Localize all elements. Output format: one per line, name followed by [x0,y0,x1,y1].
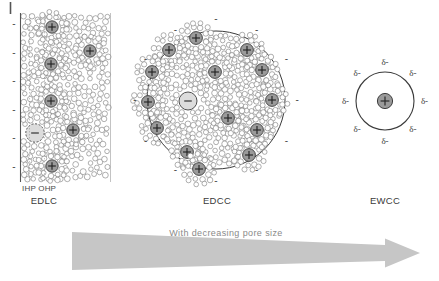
solvent-molecule [193,59,198,64]
solvent-molecule [54,75,59,80]
solvent-molecule [66,75,72,81]
delta-negative-charge: δ- [421,96,428,106]
solvent-molecule [254,42,259,47]
pore-wall-negative-charge: - [214,13,217,24]
solvent-molecule [238,78,243,83]
solvent-molecule [165,128,170,133]
solvent-molecule [259,145,264,150]
solvent-molecule [207,135,212,140]
solvent-molecule [78,63,84,69]
solvent-molecule [21,13,27,19]
solvent-molecule [44,122,50,128]
solvent-molecule [217,160,222,165]
solvent-molecule [55,69,60,74]
solvent-molecule [21,112,26,117]
solvent-molecule [221,45,226,50]
solvent-molecule [167,117,172,122]
solvent-molecule [104,126,109,131]
solvent-molecule [102,172,108,178]
solvent-molecule [48,173,53,178]
solvent-molecule [26,80,31,85]
solvent-molecule [208,30,213,35]
solvent-molecule [244,84,249,89]
solvent-molecule [251,143,256,148]
arrow-caption: With decreasing pore size [169,228,283,238]
solvent-molecule [88,98,94,104]
solvent-molecule [47,14,52,19]
solvent-molecule [91,112,96,117]
solvent-molecule [21,72,27,78]
solvent-molecule [242,91,247,96]
solvent-molecule [194,182,199,187]
solvent-molecule [153,54,158,59]
ewcc-label: EWCC [370,195,400,206]
solvent-molecule [86,144,92,150]
solvent-molecule [239,37,244,42]
solvent-molecule [21,139,27,145]
solvent-molecule [231,80,236,85]
solvent-molecule [195,151,200,156]
electrode-negative-charge: - [12,47,15,58]
solvent-molecule [156,46,161,51]
solvent-molecule [98,13,104,19]
solvent-molecule [86,89,91,94]
solvent-molecule [151,45,157,51]
solvent-molecule [283,92,288,97]
solvent-molecule [193,177,198,182]
solvent-molecule [164,65,169,70]
solvent-molecule [249,67,254,72]
solvent-molecule [239,103,244,108]
solvent-molecule [213,126,218,131]
solvent-molecule [41,176,46,181]
solvent-molecule [104,132,109,137]
solvent-molecule [232,58,237,63]
solvent-molecule [240,32,245,37]
solvent-molecule [213,155,218,160]
solvent-molecule [61,139,66,144]
solvent-molecule [78,76,84,82]
solvent-molecule [41,170,46,175]
solvent-molecule [23,24,29,30]
solvent-molecule [23,151,28,156]
solvent-molecule [207,177,213,183]
solvent-molecule [151,140,156,145]
solvent-molecule [97,74,102,79]
solvent-molecule [67,34,73,40]
solvent-molecule [58,62,63,67]
solvent-molecule [59,51,64,56]
solvent-molecule [244,72,249,77]
solvent-molecule [73,162,79,168]
solvent-molecule [86,107,91,112]
solvent-molecule [23,106,29,112]
pore-wall-negative-charge: - [285,135,288,146]
solvent-molecule [244,127,249,132]
solvent-molecule [209,104,214,109]
solvent-molecule [73,53,78,58]
delta-negative-charge: δ- [342,96,349,106]
solvent-molecule [253,34,258,39]
solvent-molecule [161,33,166,38]
solvent-molecule [56,33,61,38]
solvent-molecule [190,110,195,115]
solvent-molecule [161,80,166,85]
solvent-molecule [240,62,245,67]
solvent-molecule [193,81,198,86]
solvent-molecule [104,93,109,98]
solvent-molecule [59,99,64,104]
solvent-molecule [63,66,68,71]
solvent-molecule [189,77,194,82]
solvent-molecule [234,110,239,115]
solvent-molecule [139,68,144,73]
solvent-molecule [175,35,180,40]
solvent-molecule [33,62,38,67]
solvent-molecule [259,41,264,46]
solvent-molecule [158,90,163,95]
solvent-molecule [23,162,28,167]
solvent-molecule [155,103,160,108]
solvent-molecule [202,181,207,186]
solvent-molecule [229,44,235,50]
solvent-molecule [226,49,231,54]
solvent-molecule [236,118,241,123]
solvent-molecule [137,93,142,98]
electrode-negative-charge: - [12,132,15,143]
